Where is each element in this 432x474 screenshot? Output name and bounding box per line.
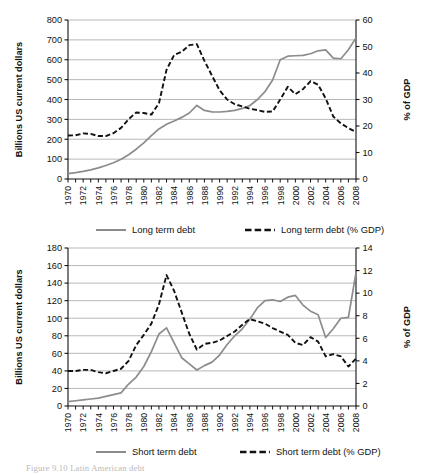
legend-label-2: Long term debt (% GDP) (281, 224, 384, 235)
y-tick-label: 300 (47, 115, 62, 125)
y-tick-label: 200 (47, 135, 62, 145)
y-tick-label: 60 (52, 349, 62, 359)
x-tick-label: 2002 (306, 413, 316, 432)
x-tick-label: 1994 (245, 186, 255, 205)
y-axis-title: Billions US current dollars (14, 269, 24, 384)
y2-tick-label: 6 (363, 334, 368, 344)
y-tick-label: 160 (47, 261, 62, 271)
x-tick-label: 1980 (139, 413, 149, 432)
x-tick-label: 1996 (260, 413, 270, 432)
series-line-1 (68, 38, 356, 174)
x-tick-label: 2008 (351, 186, 361, 205)
y-tick-label: 800 (47, 15, 62, 25)
x-tick-label: 1976 (109, 413, 119, 432)
y-tick-label: 120 (47, 296, 62, 306)
y-tick-label: 80 (52, 331, 62, 341)
x-tick-label: 1996 (260, 186, 270, 205)
x-tick-label: 1984 (169, 413, 179, 432)
x-tick-label: 1990 (215, 413, 225, 432)
x-tick-label: 1970 (63, 413, 73, 432)
x-tick-label: 1972 (78, 413, 88, 432)
x-tick-label: 2008 (351, 413, 361, 432)
x-tick-label: 2006 (336, 186, 346, 205)
y-tick-label: 0 (57, 174, 62, 184)
y-tick-label: 40 (52, 366, 62, 376)
y-tick-label: 400 (47, 95, 62, 105)
series-line-2 (68, 275, 356, 373)
x-tick-label: 1978 (124, 186, 134, 205)
y-tick-label: 100 (47, 154, 62, 164)
y2-axis-title: % of GDP (402, 306, 412, 348)
x-tick-label: 1992 (230, 186, 240, 205)
y2-tick-label: 0 (363, 174, 368, 184)
x-tick-label: 1970 (63, 186, 73, 205)
y-tick-label: 100 (47, 314, 62, 324)
y-tick-label: 700 (47, 35, 62, 45)
y-tick-label: 180 (47, 243, 62, 253)
figure-caption: Figure 9.10 Latin American debt (26, 463, 145, 473)
y2-tick-label: 30 (363, 95, 373, 105)
y2-tick-label: 14 (363, 243, 373, 253)
x-tick-label: 1998 (276, 186, 286, 205)
x-tick-label: 1980 (139, 186, 149, 205)
x-tick-label: 1978 (124, 413, 134, 432)
figure-latin-american-debt: 0100200300400500600700800010203040506019… (0, 0, 432, 474)
y2-tick-label: 8 (363, 311, 368, 321)
y2-tick-label: 50 (363, 42, 373, 52)
y-axis-title: Billions US current dollars (14, 42, 24, 157)
y2-tick-label: 0 (363, 401, 368, 411)
x-tick-label: 1974 (94, 186, 104, 205)
x-tick-label: 1988 (200, 413, 210, 432)
chart-panel-long-term-debt: 0100200300400500600700800010203040506019… (0, 2, 432, 240)
legend-label-1: Short term debt (132, 446, 197, 457)
legend-label-1: Long term debt (132, 224, 195, 235)
x-tick-label: 1972 (78, 186, 88, 205)
x-tick-label: 2000 (291, 413, 301, 432)
x-tick-label: 2000 (291, 186, 301, 205)
legend-label-2: Short term debt (% GDP) (276, 446, 381, 457)
x-tick-label: 1976 (109, 186, 119, 205)
x-tick-label: 1992 (230, 413, 240, 432)
y2-axis-title: % of GDP (402, 79, 412, 121)
y2-tick-label: 60 (363, 15, 373, 25)
y2-tick-label: 2 (363, 379, 368, 389)
x-tick-label: 1994 (245, 413, 255, 432)
y-tick-label: 140 (47, 278, 62, 288)
x-tick-label: 1998 (276, 413, 286, 432)
x-tick-label: 1974 (94, 413, 104, 432)
x-tick-label: 1982 (154, 413, 164, 432)
y2-tick-label: 4 (363, 356, 368, 366)
y-tick-label: 0 (57, 401, 62, 411)
series-line-1 (68, 273, 356, 402)
chart-panel-short-term-debt: 0204060801001201401601800246810121419701… (0, 238, 432, 460)
y-tick-label: 20 (52, 384, 62, 394)
x-tick-label: 2006 (336, 413, 346, 432)
y2-tick-label: 20 (363, 121, 373, 131)
x-tick-label: 2004 (321, 413, 331, 432)
x-tick-label: 1988 (200, 186, 210, 205)
x-tick-label: 1984 (169, 186, 179, 205)
x-tick-label: 1986 (185, 186, 195, 205)
x-tick-label: 1982 (154, 186, 164, 205)
short-term-debt-chart: 0204060801001201401601800246810121419701… (0, 238, 432, 460)
y-tick-label: 600 (47, 55, 62, 65)
x-tick-label: 2002 (306, 186, 316, 205)
y-tick-label: 500 (47, 75, 62, 85)
x-tick-label: 1990 (215, 186, 225, 205)
y2-tick-label: 12 (363, 266, 373, 276)
y2-tick-label: 10 (363, 148, 373, 158)
y2-tick-label: 10 (363, 288, 373, 298)
y2-tick-label: 40 (363, 68, 373, 78)
x-tick-label: 1986 (185, 413, 195, 432)
x-tick-label: 2004 (321, 186, 331, 205)
long-term-debt-chart: 0100200300400500600700800010203040506019… (0, 2, 432, 240)
series-line-2 (68, 44, 356, 136)
